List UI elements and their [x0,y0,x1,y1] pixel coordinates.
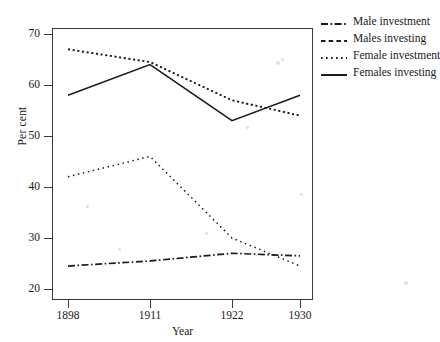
y-axis-tick-label: 60 [0,79,40,91]
y-axis-tick [44,289,52,290]
chart-figure: Per cent 203040506070 1898191119221930 Y… [0,0,440,342]
data-series-layer [52,28,313,300]
x-axis-tick [300,300,301,308]
scan-speck [300,193,303,196]
scan-speck [86,205,89,208]
legend-label: Males investing [353,33,426,45]
series-line-female-investment [68,156,300,266]
y-axis-tick [44,34,52,35]
x-axis-title: Year [52,325,313,337]
scan-speck [281,58,284,61]
y-axis-title: Per cent [16,86,28,166]
scan-speck [404,281,408,285]
x-axis-tick-label: 1922 [209,310,255,322]
x-axis-tick-label: 1930 [277,310,323,322]
x-axis-tick [232,300,233,308]
legend-item: Males investing [321,31,439,47]
x-axis-tick-label: 1898 [45,310,91,322]
x-axis-tick [150,300,151,308]
y-axis-tick [44,136,52,137]
solid-line-key [321,67,347,79]
scan-speck [276,61,280,65]
scan-speck [246,126,249,129]
y-axis-tick [44,85,52,86]
y-axis-tick-label: 70 [0,28,40,40]
legend-label: Females investing [353,67,436,79]
legend-label: Female investment [353,50,440,62]
series-line-male-investment [68,253,300,266]
y-axis-tick-label: 40 [0,181,40,193]
dashed-line-key [321,33,347,45]
series-line-females-investing [68,65,300,121]
legend-item: Females investing [321,65,439,81]
chart-legend: Male investmentMales investingFemale inv… [321,14,439,82]
y-axis-tick-label: 20 [0,283,40,295]
y-axis-tick [44,187,52,188]
legend-item: Male investment [321,14,439,30]
y-axis-tick-label: 50 [0,130,40,142]
x-axis-tick [68,300,69,308]
legend-item: Female investment [321,48,439,64]
y-axis-tick [44,238,52,239]
x-axis-tick-label: 1911 [127,310,173,322]
scan-speck [205,232,208,235]
legend-label: Male investment [353,16,430,28]
dashdot-line-key [321,16,347,28]
dotted-line-key [321,50,347,62]
y-axis-tick-label: 30 [0,232,40,244]
